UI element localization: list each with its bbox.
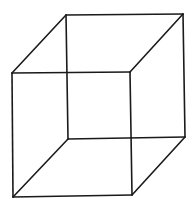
bottom-left-connector	[13, 139, 68, 197]
front-top-edge	[12, 72, 130, 73]
necker-cube-diagram	[0, 0, 194, 209]
front-right-edge	[130, 72, 132, 195]
top-right-connector	[130, 14, 183, 72]
front-left-edge	[12, 73, 13, 197]
back-right-edge	[183, 14, 185, 137]
back-left-edge	[66, 15, 68, 139]
front-bottom-edge	[13, 195, 132, 197]
back-top-edge	[66, 14, 183, 15]
back-bottom-edge	[68, 137, 185, 139]
bottom-right-connector	[132, 137, 185, 195]
top-left-connector	[12, 15, 66, 73]
